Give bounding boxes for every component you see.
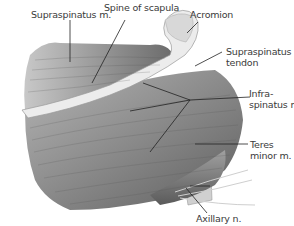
label-acromion: Acromion [190, 9, 233, 20]
label-line: tendon [226, 57, 291, 68]
label-line: Supraspinatus [226, 46, 291, 57]
label-line: spinatus m. [249, 99, 294, 110]
label-supraspinatus-m: Supraspinatus m. [31, 9, 111, 20]
label-infraspinatus-m: Infra- spinatus m. [249, 88, 294, 110]
label-line: Infra- [249, 88, 294, 99]
label-axillary-n: Axillary n. [196, 213, 241, 224]
label-spine-of-scapula: Spine of scapula [104, 2, 179, 13]
label-line: Teres [250, 139, 291, 150]
shoulder-illustration [0, 0, 294, 226]
label-line: minor m. [250, 150, 291, 161]
label-teres-minor-m: Teres minor m. [250, 139, 291, 161]
anatomy-figure: Supraspinatus m. Spine of scapula Acromi… [0, 0, 294, 226]
label-supraspinatus-tendon: Supraspinatus tendon [226, 46, 291, 68]
